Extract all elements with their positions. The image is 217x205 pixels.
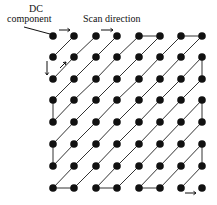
diagonal-segment	[181, 166, 202, 188]
coefficient-dot	[156, 53, 164, 61]
coefficient-dot	[92, 184, 100, 192]
diagonal-segment	[74, 100, 96, 122]
diagonal-segment	[139, 122, 160, 144]
diagonal-segment	[96, 122, 117, 144]
diagonal-segment	[96, 36, 117, 57]
diagonal-segment	[96, 144, 117, 166]
diagonal-segment	[160, 57, 181, 79]
coefficient-dot	[70, 184, 78, 192]
coefficient-dot	[92, 118, 100, 126]
diagonal-segment	[160, 36, 181, 57]
coefficient-dot	[70, 118, 78, 126]
diagonal-segment	[117, 79, 139, 100]
diagonal-segment	[117, 166, 139, 188]
diagonal-segment	[74, 122, 96, 144]
coefficient-dot	[113, 96, 121, 104]
diagonal-segment	[160, 79, 181, 100]
diagonal-segment	[181, 100, 202, 122]
coefficient-dot	[198, 96, 206, 104]
coefficient-dot	[135, 118, 143, 126]
coefficient-dot	[49, 96, 57, 104]
diagonal-segment	[117, 122, 139, 144]
coefficient-dot	[113, 53, 121, 61]
coefficient-dot	[156, 184, 164, 192]
scan-arrow-diagonal	[60, 62, 66, 68]
coefficient-dot	[70, 53, 78, 61]
diagonal-segment	[181, 57, 202, 79]
diagonal-segment	[160, 166, 181, 188]
diagonal-segment	[74, 144, 96, 166]
diagonal-segment	[181, 36, 202, 57]
coefficient-dot	[177, 96, 185, 104]
coefficient-dot	[198, 140, 206, 148]
coefficient-dot	[177, 162, 185, 170]
diagonal-segment	[160, 144, 181, 166]
diagonal-segment	[181, 79, 202, 100]
diagonal-segment	[53, 57, 74, 79]
coefficient-dot	[156, 32, 164, 40]
coefficient-dot	[113, 162, 121, 170]
coefficient-dot	[198, 75, 206, 83]
coefficient-dot	[92, 75, 100, 83]
coefficient-dot	[92, 53, 100, 61]
coefficient-dot	[177, 53, 185, 61]
coefficient-dot	[177, 184, 185, 192]
diagonal-segment	[139, 100, 160, 122]
diagonal-segment	[96, 166, 117, 188]
coefficient-dot	[156, 140, 164, 148]
zigzag-scan-diagram	[0, 0, 217, 205]
coefficient-dot	[198, 162, 206, 170]
coefficient-dot	[49, 162, 57, 170]
coefficient-dot	[198, 32, 206, 40]
dc-coefficient-dot	[49, 32, 57, 40]
coefficient-dot	[92, 96, 100, 104]
diagonal-segment	[117, 36, 139, 57]
diagonal-segment	[96, 57, 117, 79]
diagonal-segment	[139, 144, 160, 166]
coefficient-dot	[156, 162, 164, 170]
diagonal-segment	[74, 166, 96, 188]
coefficient-dot	[113, 118, 121, 126]
coefficient-dot	[70, 75, 78, 83]
coefficient-dot	[49, 118, 57, 126]
coefficient-dot	[135, 162, 143, 170]
diagonal-segment	[160, 100, 181, 122]
coefficient-dot	[177, 75, 185, 83]
coefficient-dot	[198, 118, 206, 126]
coefficient-dot	[70, 32, 78, 40]
diagonal-segment	[117, 57, 139, 79]
diagonal-segment	[53, 36, 74, 57]
diagonal-segment	[139, 57, 160, 79]
diagonal-segment	[181, 122, 202, 144]
coefficient-dot	[135, 140, 143, 148]
diagonal-segment	[117, 100, 139, 122]
coefficient-dot	[135, 184, 143, 192]
diagonal-segment	[160, 122, 181, 144]
coefficient-dot	[177, 118, 185, 126]
coefficient-dot	[49, 184, 57, 192]
diagonal-segment	[139, 79, 160, 100]
coefficient-dot	[92, 32, 100, 40]
diagonal-segment	[96, 100, 117, 122]
coefficient-dot	[70, 140, 78, 148]
diagonal-segment	[53, 122, 74, 144]
coefficient-dot	[198, 184, 206, 192]
diagonal-segment	[53, 100, 74, 122]
diagonal-segment	[117, 144, 139, 166]
coefficient-dot	[70, 96, 78, 104]
coefficient-dot	[113, 75, 121, 83]
diagonal-segment	[74, 57, 96, 79]
diagonal-segment	[53, 166, 74, 188]
diagonal-segment	[96, 79, 117, 100]
coefficient-dot	[198, 53, 206, 61]
coefficient-dot	[49, 75, 57, 83]
diagonal-segment	[181, 144, 202, 166]
dc-pointer-line	[24, 27, 50, 34]
coefficient-dot	[177, 140, 185, 148]
diagonal-segment	[139, 166, 160, 188]
diagonal-segment	[139, 36, 160, 57]
coefficient-dot	[113, 184, 121, 192]
diagonal-segment	[53, 79, 74, 100]
coefficient-dot	[135, 53, 143, 61]
coefficient-dot	[113, 140, 121, 148]
